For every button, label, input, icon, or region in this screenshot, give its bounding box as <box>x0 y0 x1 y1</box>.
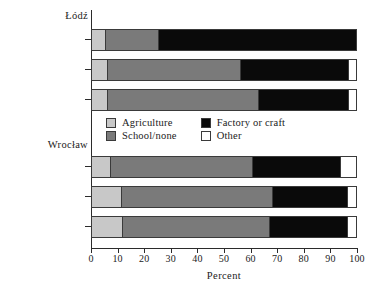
legend-label: Agriculture <box>122 117 173 128</box>
x-axis-tick-label: 40 <box>182 253 212 264</box>
bar-segment-school <box>122 217 269 237</box>
bar-segment-factory <box>269 217 347 237</box>
legend-item: Other <box>201 130 286 141</box>
bar-segment-agriculture <box>92 157 110 177</box>
legend-swatch-icon <box>201 118 211 128</box>
stacked-bar <box>91 29 357 51</box>
bar-segment-other <box>348 90 356 110</box>
x-axis-tick-label: 20 <box>129 253 159 264</box>
bar-segment-factory <box>252 157 340 177</box>
stacked-bar <box>91 59 357 81</box>
bar-segment-agriculture <box>92 187 121 207</box>
stacked-bar-chart: Łódź Wrocław PPS (n = 20)PPR (n = 68)All… <box>0 0 378 291</box>
bar-segment-school <box>107 90 259 110</box>
bar-segment-agriculture <box>92 90 107 110</box>
legend-swatch-icon <box>106 131 116 141</box>
x-axis-tick-label: 70 <box>262 253 292 264</box>
x-axis-tick-label: 90 <box>315 253 345 264</box>
bar-segment-other <box>347 217 356 237</box>
x-axis-tick-label: 30 <box>156 253 186 264</box>
bar-segment-factory <box>158 30 356 50</box>
legend-item: Factory or craft <box>201 117 286 128</box>
legend-item: Agriculture <box>106 117 177 128</box>
stacked-bar <box>91 89 357 111</box>
x-axis-tick-label: 50 <box>209 253 239 264</box>
legend-label: School/none <box>122 130 177 141</box>
bar-segment-other <box>348 60 356 80</box>
stacked-bar <box>91 186 357 208</box>
x-axis-tick-label: 10 <box>103 253 133 264</box>
bar-segment-factory <box>272 187 347 207</box>
bar-segment-factory <box>240 60 348 80</box>
legend-swatch-icon <box>106 118 116 128</box>
legend-label: Factory or craft <box>217 117 286 128</box>
x-axis-tick-label: 0 <box>76 253 106 264</box>
x-axis-tick-label: 100 <box>342 253 372 264</box>
bar-segment-school <box>110 157 251 177</box>
x-axis-tick-label: 60 <box>236 253 266 264</box>
bar-segment-agriculture <box>92 217 122 237</box>
bar-segment-agriculture <box>92 30 105 50</box>
chart-legend: AgricultureFactory or craftSchool/noneOt… <box>104 116 287 142</box>
bar-segment-school <box>105 30 158 50</box>
bar-segment-other <box>347 187 356 207</box>
group-header-lodz: Łódź <box>0 10 88 21</box>
bar-segment-factory <box>258 90 348 110</box>
stacked-bar <box>91 216 357 238</box>
bar-segment-school <box>107 60 240 80</box>
legend-swatch-icon <box>201 131 211 141</box>
legend-label: Other <box>217 130 242 141</box>
bar-segment-other <box>340 157 356 177</box>
group-header-wroclaw: Wrocław <box>0 139 88 150</box>
legend-item: School/none <box>106 130 177 141</box>
stacked-bar <box>91 156 357 178</box>
bar-segment-school <box>121 187 271 207</box>
bar-segment-agriculture <box>92 60 107 80</box>
x-axis-tick-label: 80 <box>289 253 319 264</box>
x-axis-title: Percent <box>91 270 357 281</box>
